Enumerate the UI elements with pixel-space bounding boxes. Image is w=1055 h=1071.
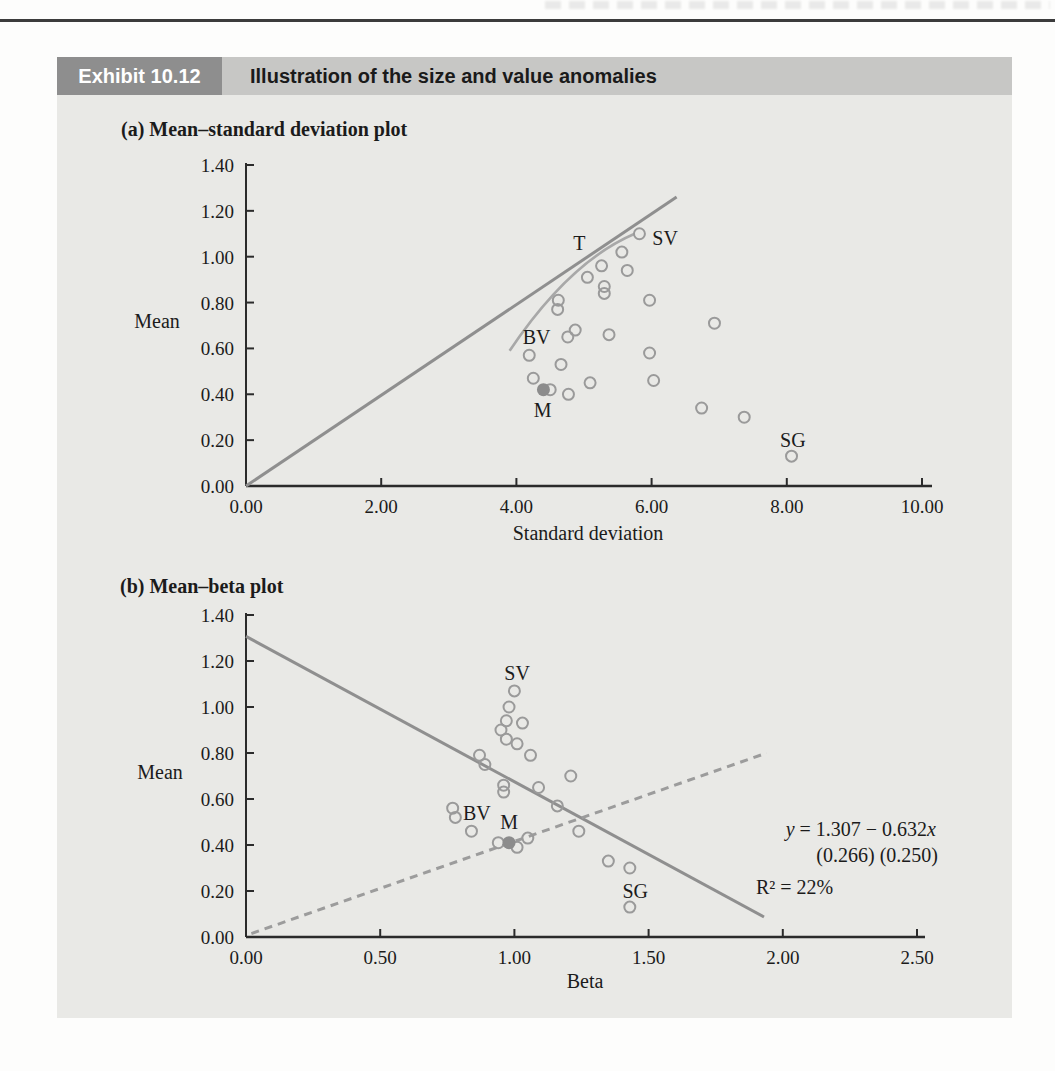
chart-title: (b) Mean–beta plot [120,575,284,598]
x-tick-label: 4.00 [500,496,533,517]
x-tick-label: 8.00 [770,496,803,517]
data-point [504,702,515,713]
y-tick-label: 1.40 [201,155,234,176]
y-axis-title: Mean [137,761,183,783]
data-point [644,295,655,306]
data-point [603,856,614,867]
y-tick-label: 0.40 [201,384,234,405]
data-point [786,451,797,462]
x-tick-label: 1.50 [632,947,665,968]
point-label-m: M [534,399,552,421]
chart-mean-sd: (a) Mean–standard deviation plot0.002.00… [121,118,943,544]
data-point [556,359,567,370]
eq-var-x: x [926,818,936,840]
data-point [624,863,635,874]
data-point [739,412,750,423]
data-point [493,837,504,848]
exhibit-title: Illustration of the size and value anoma… [250,65,657,88]
y-tick-label: 0.80 [201,293,234,314]
x-tick-label: 0.00 [229,496,262,517]
data-point [509,685,520,696]
data-point [524,350,535,361]
chart-title: (a) Mean–standard deviation plot [121,118,407,141]
x-tick-label: 2.00 [766,947,799,968]
data-point [501,734,512,745]
data-point [622,265,633,276]
point-label-sv: SV [504,662,530,684]
data-point [604,329,615,340]
data-point [573,826,584,837]
eq-var-y: y [784,818,795,841]
data-point [562,331,573,342]
data-point [709,318,720,329]
y-tick-label: 1.20 [201,651,234,672]
data-point [599,288,610,299]
data-point [565,771,576,782]
exhibit-title-bar: Illustration of the size and value anoma… [222,57,1012,95]
y-tick-label: 0.00 [201,927,234,948]
x-tick-label: 2.50 [900,947,933,968]
data-point [522,833,533,844]
x-tick-label: 0.50 [364,947,397,968]
data-point [533,782,544,793]
x-tick-label: 10.00 [901,496,944,517]
y-tick-label: 0.60 [201,789,234,810]
data-point [498,787,509,798]
data-point [616,247,627,258]
eq-body: = 1.307 − 0.632 [795,818,928,840]
point-label-bv: BV [523,326,551,348]
y-tick-label: 0.40 [201,835,234,856]
y-tick-label: 1.20 [201,201,234,222]
y-axis-title: Mean [134,310,180,332]
point-label-sg: SG [622,880,648,902]
market-portfolio-point [537,383,550,396]
data-point [585,377,596,388]
market-portfolio-point [503,836,516,849]
y-tick-label: 0.20 [201,881,234,902]
book-page: (a) Mean–standard deviation plot0.002.00… [0,0,1055,1071]
data-point [648,375,659,386]
point-label-bv: BV [463,802,491,824]
x-tick-label: 2.00 [365,496,398,517]
charts-svg: (a) Mean–standard deviation plot0.002.00… [0,0,1055,1071]
y-tick-label: 1.40 [201,605,234,626]
point-label-m: M [500,811,518,833]
x-tick-label: 1.00 [498,947,531,968]
y-tick-label: 0.00 [201,476,234,497]
exhibit-header: Exhibit 10.12 Illustration of the size a… [57,57,1012,95]
exhibit-number: Exhibit 10.12 [78,65,200,88]
x-axis-title: Standard deviation [513,522,664,544]
y-tick-label: 0.20 [201,430,234,451]
annotation-line-1: y = 1.307 − 0.632x [784,818,936,841]
x-tick-label: 0.00 [229,947,262,968]
annotation-line-3: R² = 22% [756,876,833,898]
x-tick-label: 6.00 [635,496,668,517]
data-point [466,826,477,837]
data-point [528,373,539,384]
data-point [696,403,707,414]
exhibit-number-box: Exhibit 10.12 [57,57,222,95]
data-point [517,718,528,729]
y-tick-label: 0.80 [201,743,234,764]
data-point [624,902,635,913]
point-label-sg: SG [780,429,806,451]
point-label-t: T [573,232,585,254]
chart-mean-beta: (b) Mean–beta plot0.000.501.001.502.002.… [120,575,938,992]
y-tick-label: 1.00 [201,697,234,718]
data-point [582,272,593,283]
y-tick-label: 1.00 [201,247,234,268]
point-label-sv: SV [652,227,678,249]
data-point [563,389,574,400]
y-tick-label: 0.60 [201,338,234,359]
data-point [596,260,607,271]
tangency-line [246,197,677,486]
data-point [512,738,523,749]
data-point [525,750,536,761]
data-point [644,348,655,359]
annotation-line-2: (0.266) (0.250) [816,844,938,867]
data-point [634,228,645,239]
x-axis-title: Beta [567,970,604,992]
